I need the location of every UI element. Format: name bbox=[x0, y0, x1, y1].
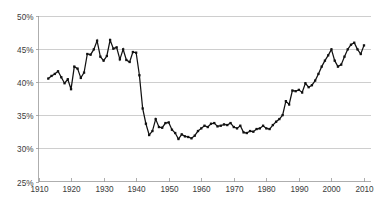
data-point-marker bbox=[148, 134, 150, 136]
data-point-marker bbox=[112, 48, 114, 50]
data-point-marker bbox=[334, 60, 336, 62]
data-point-marker bbox=[317, 73, 319, 75]
data-point-marker bbox=[200, 127, 202, 129]
data-point-marker bbox=[233, 126, 235, 128]
data-point-marker bbox=[86, 53, 88, 55]
data-point-marker bbox=[203, 125, 205, 127]
y-axis-tick-labels: 50%45%40%35%30%25% bbox=[17, 13, 33, 188]
x-tick-label: 2000 bbox=[322, 185, 341, 194]
data-point-marker bbox=[239, 125, 241, 127]
data-point-marker bbox=[93, 48, 95, 50]
x-tick-label: 1940 bbox=[127, 185, 146, 194]
data-point-marker bbox=[229, 122, 231, 124]
data-point-marker bbox=[47, 77, 49, 79]
data-point-marker bbox=[171, 129, 173, 131]
data-point-marker bbox=[119, 58, 121, 60]
data-point-marker bbox=[220, 125, 222, 127]
y-tick-label: 40% bbox=[17, 79, 33, 88]
x-tick-label: 1980 bbox=[257, 185, 276, 194]
y-tick-label: 50% bbox=[17, 13, 33, 22]
gridlines bbox=[39, 17, 371, 149]
data-point-marker bbox=[356, 48, 358, 50]
data-point-marker bbox=[327, 54, 329, 56]
data-point-marker bbox=[311, 84, 313, 86]
data-point-marker bbox=[207, 126, 209, 128]
data-point-marker bbox=[343, 56, 345, 58]
data-point-marker bbox=[242, 131, 244, 133]
data-point-marker bbox=[265, 127, 267, 129]
data-point-marker bbox=[340, 63, 342, 65]
data-point-marker bbox=[67, 78, 69, 80]
data-point-marker bbox=[281, 114, 283, 116]
tick-marks bbox=[36, 17, 365, 183]
data-point-marker bbox=[301, 91, 303, 93]
data-point-marker bbox=[350, 44, 352, 46]
data-point-marker bbox=[164, 122, 166, 124]
data-point-marker bbox=[155, 118, 157, 120]
y-tick-label: 30% bbox=[17, 145, 33, 154]
data-point-marker bbox=[347, 48, 349, 50]
data-point-marker bbox=[132, 51, 134, 53]
data-point-marker bbox=[275, 121, 277, 123]
data-point-marker bbox=[291, 89, 293, 91]
data-point-marker bbox=[138, 74, 140, 76]
data-point-marker bbox=[73, 65, 75, 67]
chart-canvas: 50%45%40%35%30%25% 191019201930194019501… bbox=[0, 0, 387, 213]
data-point-marker bbox=[151, 130, 153, 132]
data-point-marker bbox=[145, 123, 147, 125]
data-point-marker bbox=[122, 48, 124, 50]
data-point-marker bbox=[142, 107, 144, 109]
data-point-marker bbox=[125, 59, 127, 61]
data-point-marker bbox=[304, 82, 306, 84]
data-point-marker bbox=[194, 135, 196, 137]
data-point-marker bbox=[272, 124, 274, 126]
x-tick-label: 1920 bbox=[62, 185, 81, 194]
data-point-marker bbox=[76, 67, 78, 69]
data-point-marker bbox=[99, 56, 101, 58]
data-point-marker bbox=[294, 90, 296, 92]
data-point-marker bbox=[109, 39, 111, 41]
x-tick-label: 1990 bbox=[290, 185, 309, 194]
data-point-marker bbox=[50, 75, 52, 77]
data-point-marker bbox=[115, 46, 117, 48]
x-tick-label: 1930 bbox=[95, 185, 114, 194]
data-point-marker bbox=[70, 88, 72, 90]
data-point-marker bbox=[330, 48, 332, 50]
x-tick-label: 1950 bbox=[160, 185, 179, 194]
data-point-marker bbox=[259, 127, 261, 129]
data-point-marker bbox=[262, 125, 264, 127]
data-point-marker bbox=[308, 86, 310, 88]
x-tick-label: 1960 bbox=[192, 185, 211, 194]
data-point-marker bbox=[187, 136, 189, 138]
data-point-marker bbox=[213, 122, 215, 124]
y-tick-label: 45% bbox=[17, 46, 33, 55]
data-point-marker bbox=[226, 124, 228, 126]
data-point-marker bbox=[246, 132, 248, 134]
data-point-marker bbox=[337, 65, 339, 67]
data-point-marker bbox=[321, 65, 323, 67]
data-point-marker bbox=[314, 79, 316, 81]
data-point-marker bbox=[80, 77, 82, 79]
data-point-marker bbox=[106, 55, 108, 57]
data-point-marker bbox=[168, 121, 170, 123]
data-point-marker bbox=[216, 125, 218, 127]
axes bbox=[39, 16, 371, 182]
data-point-marker bbox=[363, 44, 365, 46]
data-point-marker bbox=[96, 40, 98, 42]
data-point-markers bbox=[47, 39, 365, 140]
data-point-marker bbox=[89, 54, 91, 56]
data-point-marker bbox=[288, 103, 290, 105]
data-series-line bbox=[48, 40, 364, 139]
data-point-marker bbox=[54, 73, 56, 75]
data-point-marker bbox=[360, 53, 362, 55]
data-point-marker bbox=[236, 127, 238, 129]
data-point-marker bbox=[210, 123, 212, 125]
y-tick-label: 35% bbox=[17, 112, 33, 121]
data-point-marker bbox=[268, 128, 270, 130]
data-point-marker bbox=[57, 70, 59, 72]
series-line-share bbox=[48, 40, 364, 139]
data-point-marker bbox=[298, 89, 300, 91]
data-point-marker bbox=[190, 137, 192, 139]
data-point-marker bbox=[255, 128, 257, 130]
data-point-marker bbox=[324, 60, 326, 62]
